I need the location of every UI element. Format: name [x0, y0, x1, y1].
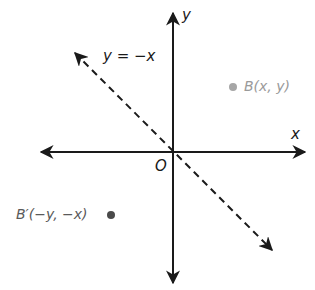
coordinate-plane-diagram: y x O y = −x B(x, y) B′(−y, −x)	[0, 0, 315, 290]
point-b-label: B(x, y)	[244, 79, 290, 93]
point-b-dot	[229, 83, 237, 91]
reflection-line-label: y = −x	[103, 49, 155, 64]
x-axis-label: x	[291, 127, 300, 142]
point-b-prime-label: B′(−y, −x)	[16, 207, 88, 221]
diagram-canvas	[0, 0, 315, 290]
point-b-prime-dot	[107, 211, 115, 219]
y-axis-label: y	[182, 8, 191, 23]
origin-label: O	[155, 159, 167, 174]
